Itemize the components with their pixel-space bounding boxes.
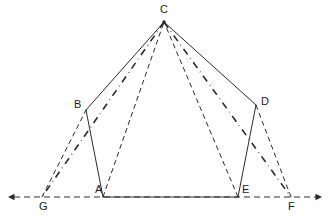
point-label-a: A bbox=[95, 184, 102, 195]
geometry-figure: ABCDEFG bbox=[0, 0, 332, 224]
segment-A-C bbox=[103, 22, 164, 197]
segment-C-G bbox=[42, 22, 164, 197]
segment-D-F bbox=[256, 105, 291, 197]
figure-canvas bbox=[0, 0, 332, 224]
point-label-g: G bbox=[39, 201, 48, 212]
baseline-layer bbox=[8, 194, 322, 200]
point-label-e: E bbox=[242, 184, 249, 195]
point-label-b: B bbox=[74, 99, 81, 110]
segment-G-B bbox=[42, 110, 86, 197]
vertices-layer bbox=[162, 20, 165, 23]
point-label-f: F bbox=[288, 201, 295, 212]
segment-E-C bbox=[164, 22, 238, 197]
baseline-right-arrowhead bbox=[316, 194, 323, 200]
vertex-point-C bbox=[162, 20, 165, 23]
point-label-c: C bbox=[160, 4, 168, 15]
segment-C-B bbox=[86, 22, 164, 110]
baseline-left-arrowhead bbox=[8, 194, 15, 200]
segment-C-F bbox=[164, 22, 291, 197]
segment-C-D bbox=[164, 22, 256, 105]
point-label-d: D bbox=[261, 96, 269, 107]
